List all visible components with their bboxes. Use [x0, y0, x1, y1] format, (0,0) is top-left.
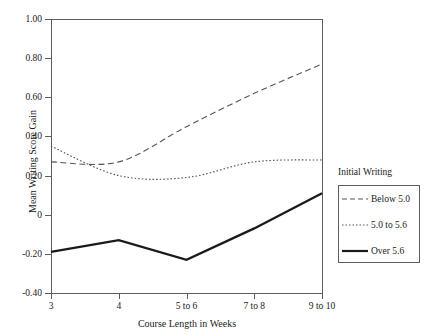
- y-tick-label: 0: [37, 210, 42, 220]
- x-tick-mark: [187, 293, 188, 299]
- x-tick-mark: [51, 293, 52, 299]
- right-axis-line: [322, 19, 323, 294]
- y-tick-label: -0.40: [22, 288, 42, 298]
- y-tick-mark: [45, 58, 51, 59]
- legend-swatch-dotted-icon: [342, 220, 368, 230]
- x-tick-mark: [254, 293, 255, 299]
- legend-item-below-5-0[interactable]: Below 5.0: [339, 186, 419, 212]
- y-tick-mark: [45, 136, 51, 137]
- series-line-over-5-6: [51, 193, 322, 260]
- legend-box[interactable]: Below 5.0 5.0 to 5.6 Over 5.6: [338, 185, 420, 263]
- series-line-5-0-to-5-6: [51, 146, 322, 179]
- legend-label-5-0-to-5-6: 5.0 to 5.6: [371, 220, 407, 230]
- x-axis-label: Course Length in Weeks: [51, 318, 323, 329]
- x-tick-mark: [119, 293, 120, 299]
- legend-swatch-solid-icon: [342, 246, 368, 256]
- x-tick-label: 5 to 6: [176, 301, 198, 311]
- y-axis-line: [51, 19, 52, 294]
- y-tick-mark: [45, 19, 51, 20]
- y-tick-mark: [45, 254, 51, 255]
- x-tick-label: 3: [49, 301, 54, 311]
- legend-label-over-5-6: Over 5.6: [371, 246, 404, 256]
- legend-swatch-dashed-icon: [342, 194, 368, 204]
- legend-item-5-0-to-5-6[interactable]: 5.0 to 5.6: [339, 212, 419, 238]
- y-tick-label: 1.00: [25, 14, 42, 24]
- x-tick-mark: [322, 293, 323, 299]
- x-tick-label: 9 to 10: [309, 301, 335, 311]
- y-axis-label: Mean Writing Score Gain: [27, 52, 38, 272]
- y-tick-mark: [45, 215, 51, 216]
- legend-label-below-5-0: Below 5.0: [371, 194, 410, 204]
- series-line-below-5-0: [51, 64, 322, 164]
- x-tick-label: 7 to 8: [243, 301, 265, 311]
- y-tick-mark: [45, 176, 51, 177]
- legend-title: Initial Writing: [338, 167, 392, 177]
- y-tick-mark: [45, 97, 51, 98]
- legend-item-over-5-6[interactable]: Over 5.6: [339, 238, 419, 264]
- top-axis-line: [51, 19, 323, 20]
- x-tick-label: 4: [116, 301, 121, 311]
